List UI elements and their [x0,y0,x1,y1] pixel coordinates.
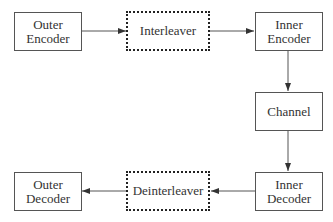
outer-encoder-block: Outer Encoder [14,12,82,51]
outer-decoder-label: Outer Decoder [26,178,70,206]
interleaver-label: Interleaver [140,24,196,38]
outer-decoder-block: Outer Decoder [14,172,82,211]
inner-encoder-label: Inner Encoder [267,18,310,46]
inner-decoder-block: Inner Decoder [255,172,323,211]
deinterleaver-block: Deinterleaver [126,171,210,211]
channel-label: Channel [267,105,310,119]
interleaver-block: Interleaver [126,11,210,51]
channel-block: Channel [255,92,323,131]
inner-decoder-label: Inner Decoder [267,178,311,206]
deinterleaver-label: Deinterleaver [133,184,204,198]
inner-encoder-block: Inner Encoder [255,12,323,51]
outer-encoder-label: Outer Encoder [26,18,69,46]
